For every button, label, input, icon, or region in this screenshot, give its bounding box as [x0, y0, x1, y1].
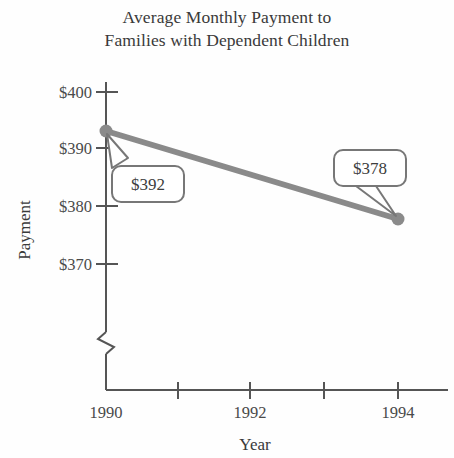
chart-plot-area: $400 $390 $380 $370 Payment 1990 1992 19… — [0, 0, 454, 458]
x-tick-label-1992: 1992 — [234, 403, 267, 422]
x-tick-label-1994: 1994 — [382, 403, 415, 422]
x-tick-label-1990: 1990 — [90, 403, 123, 422]
y-tick-label-370: $370 — [59, 255, 92, 274]
y-tick-label-390: $390 — [59, 139, 92, 158]
x-axis: 1990 1992 1994 Year — [90, 382, 449, 454]
x-axis-title: Year — [239, 435, 271, 454]
y-tick-label-400: $400 — [59, 83, 92, 102]
chart-figure: Average Monthly Payment to Families with… — [0, 0, 454, 458]
y-tick-label-380: $380 — [59, 197, 92, 216]
callout-392-label: $392 — [131, 175, 165, 194]
y-axis-title: Payment — [15, 200, 34, 260]
data-point-1990[interactable] — [100, 125, 113, 138]
y-axis-break-zigzag — [98, 332, 114, 354]
callout-378-label: $378 — [353, 159, 387, 178]
